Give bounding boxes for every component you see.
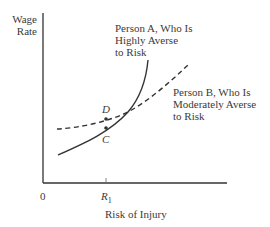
curve-person-b: [57, 65, 188, 129]
curve-a-label: Person A, Who Is Highly Averse to Risk: [115, 22, 192, 58]
r1-label-sub: 1: [108, 196, 112, 205]
curve-b-label: Person B, Who Is Moderately Averse to Ri…: [173, 86, 256, 122]
r1-label-main: R: [101, 190, 108, 202]
curve-b-label-line3: to Risk: [173, 110, 256, 122]
point-d-label: D: [102, 103, 110, 115]
r1-label: R1: [101, 190, 112, 207]
curve-a-label-line2: Highly Averse: [115, 34, 192, 46]
curve-a-label-line1: Person A, Who Is: [115, 22, 192, 34]
y-axis-label-line2: Rate: [12, 25, 37, 37]
curve-b-label-line2: Moderately Averse: [173, 98, 256, 110]
y-axis-label: Wage Rate: [12, 13, 37, 37]
point-c: [104, 126, 108, 130]
point-c-label: C: [102, 133, 109, 145]
y-axis-label-line1: Wage: [12, 13, 37, 25]
curve-a-label-line3: to Risk: [115, 46, 192, 58]
x-axis-label: Risk of Injury: [105, 208, 167, 220]
curve-b-label-line1: Person B, Who Is: [173, 86, 256, 98]
point-d: [104, 117, 108, 121]
origin-label: 0: [40, 190, 46, 202]
